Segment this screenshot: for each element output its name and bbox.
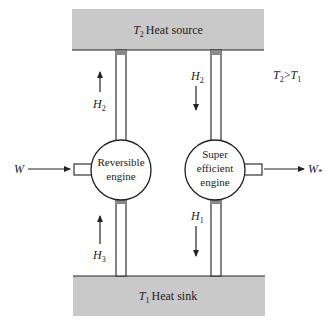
- svg-text:engine: engine: [200, 176, 229, 188]
- reversible-engine: Reversible engine: [91, 140, 151, 200]
- heat-sink-reservoir: T1Heat sink: [73, 276, 265, 316]
- svg-text:W*: W*: [308, 162, 323, 177]
- flow-left-top-arrow: H2: [92, 72, 106, 113]
- svg-text:H1: H1: [190, 209, 204, 225]
- svg-text:Super: Super: [202, 148, 228, 160]
- flow-right-top-arrow: H2: [190, 69, 204, 110]
- svg-text:Reversible: Reversible: [97, 156, 144, 168]
- super-efficient-engine: Super efficient engine: [185, 140, 245, 200]
- temperature-condition: T2>T1: [273, 68, 301, 84]
- svg-text:H2: H2: [190, 69, 204, 85]
- svg-text:engine: engine: [106, 170, 135, 182]
- work-in-arrow: W: [14, 162, 70, 176]
- svg-text:H3: H3: [92, 248, 106, 264]
- svg-text:H2: H2: [92, 97, 106, 113]
- svg-text:efficient: efficient: [197, 162, 233, 174]
- svg-text:W: W: [14, 162, 25, 176]
- heat-source-reservoir: T2Heat source: [72, 9, 264, 50]
- engine-diagram: T2Heat source T1Heat sink Reversible eng…: [0, 0, 333, 322]
- work-out-arrow: W*: [264, 162, 323, 177]
- flow-left-bottom-arrow: H3: [92, 216, 106, 264]
- flow-right-bottom-arrow: H1: [190, 209, 204, 256]
